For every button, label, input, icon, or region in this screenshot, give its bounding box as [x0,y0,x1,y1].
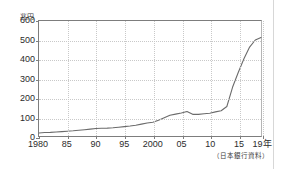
y-axis-tick-mark [36,41,39,42]
x-axis-tick-label: 85 [62,139,72,149]
x-axis-tick-label: 19年 [252,139,271,149]
gridline-vertical [240,21,241,136]
y-axis-tick-mark [36,60,39,61]
gridline-horizontal [39,80,261,81]
chart-figure: 兆円 0100200300400500600 19808590952000051… [0,0,281,169]
x-axis-tick-label: 95 [119,139,129,149]
gridline-horizontal [39,119,261,120]
x-axis-tick-label: 10 [205,139,215,149]
y-axis-tick-mark [36,21,39,22]
gridline-vertical [183,21,184,136]
gridline-vertical [96,21,97,136]
x-axis-tick-labels: 1980859095200005101519年 [38,139,262,151]
source-note: （日本銀行資料） [213,152,269,160]
y-axis-tick-mark [36,80,39,81]
y-axis-tick-label: 100 [1,113,35,122]
gridline-vertical [211,21,212,136]
y-axis-tick-labels: 0100200300400500600 [0,20,35,137]
gridline-vertical [68,21,69,136]
y-axis-tick-label: 300 [1,74,35,83]
x-axis-tick-label: 2000 [143,139,163,149]
y-axis-tick-label: 200 [1,94,35,103]
y-axis-tick-label: 500 [1,35,35,44]
x-axis-tick-label: 1980 [28,139,48,149]
gridline-vertical [154,21,155,136]
y-axis-tick-mark [36,99,39,100]
x-axis-tick-label: 90 [90,139,100,149]
x-axis-tick-label: 15 [234,139,244,149]
x-axis-tick-label: 05 [177,139,187,149]
gridline-vertical [263,21,264,136]
gridline-horizontal [39,60,261,61]
plot-inner [39,21,261,136]
y-axis-tick-label: 400 [1,55,35,64]
y-axis-tick-mark [36,119,39,120]
gridline-horizontal [39,99,261,100]
y-axis-tick-label: 600 [1,16,35,25]
gridline-horizontal [39,41,261,42]
plot-area [38,20,262,137]
page-rule-divider [273,0,274,169]
gridline-vertical [125,21,126,136]
